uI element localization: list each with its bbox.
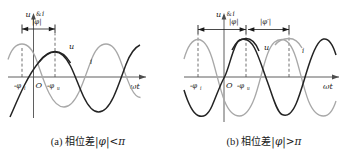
y-axis-label-u: u [216, 10, 221, 19]
y-axis-label-u: u [26, 10, 31, 19]
panel-b-caption: (b) 相位差|φ|>π [176, 130, 352, 156]
panel-a: u & i ωt O |φ| [0, 0, 176, 156]
x-mark-phi-u-label: -φ [237, 82, 244, 90]
panel-a-caption-cjk: 相位差 [65, 136, 95, 147]
panel-a-plot: u & i ωt O |φ| [0, 0, 176, 130]
origin-label: O [226, 81, 233, 90]
x-mark-phi-i: -φ i [190, 82, 202, 91]
panel-b-caption-cjk: 相位差 [241, 136, 271, 147]
x-mark-phi-i-label: -φ [190, 82, 197, 90]
x-mark-phi-i-sub: i [200, 85, 202, 91]
panel-b-caption-index: (b) [226, 136, 238, 147]
u-curve-label: u [69, 42, 74, 51]
x-mark-phi-u-sub: u [57, 85, 60, 91]
current-curve-i [184, 40, 336, 117]
panel-b-caption-math: |φ|>π [271, 135, 301, 147]
x-mark-phi-u: -φ u [237, 82, 250, 91]
y-axis-label-i: i [42, 10, 44, 18]
phase-difference-prime-span [248, 25, 289, 34]
origin-label: O [36, 81, 43, 90]
panel-a-caption: (a) 相位差|φ|<π [0, 130, 176, 156]
y-axis-label-i: i [233, 10, 235, 18]
figure-root: u & i ωt O |φ| [0, 0, 353, 156]
phase-difference-prime-span-label: |φ′| [260, 18, 271, 26]
x-mark-phi-i-label: -φ [14, 82, 21, 90]
phase-difference-span-label: |φ| [229, 18, 239, 26]
i-curve-label: i [90, 58, 92, 66]
voltage-curve-u [10, 45, 140, 117]
u-curve-label: u [264, 43, 269, 52]
phase-difference-span-label: |φ| [32, 18, 42, 26]
x-axis-label: ωt [323, 82, 334, 91]
phase-difference-span [198, 25, 246, 34]
panel-a-caption-math: |φ|<π [95, 135, 125, 147]
x-mark-phi-u-label: -φ [47, 82, 54, 90]
panel-a-caption-index: (a) [51, 136, 63, 147]
x-mark-phi-u: -φ u [47, 82, 60, 91]
i-curve-label: i [302, 47, 304, 55]
panel-b-plot: u & i ωt O |φ| [176, 0, 352, 130]
panel-b: u & i ωt O |φ| [176, 0, 352, 156]
x-mark-phi-u-sub: u [247, 85, 250, 91]
